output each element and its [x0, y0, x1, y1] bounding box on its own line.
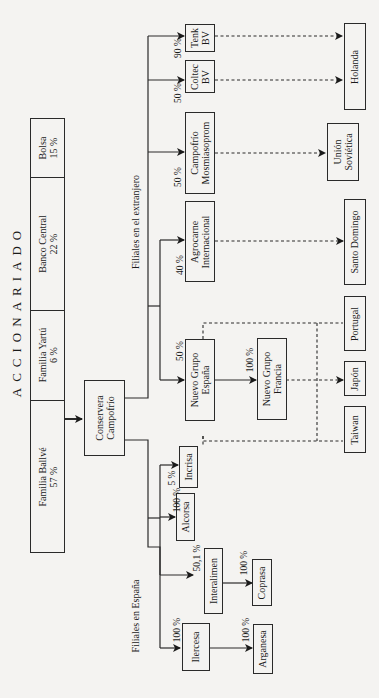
shareholder-familia-yartu: Familia Yartú6 % [31, 310, 64, 400]
subsidiary-ilercesa: Ilercesa [182, 623, 210, 671]
shareholder-familia-ballve: Familia Ballvé57 % [31, 400, 64, 554]
subsidiary-incrisa: Incrisa [179, 446, 198, 488]
pct-arganesa: 100 % [241, 618, 251, 643]
pct-mosmiasoprom: 50 % [173, 167, 183, 187]
subsidiary-interalimen: Interalimen [204, 548, 223, 614]
country-taiwan: Taiwan [344, 406, 366, 453]
pct-interalimen: 50,1 % [192, 545, 202, 572]
pct-nuevo-grupo-espana: 50 % [175, 341, 185, 361]
pct-nuevo-grupo-francia: 100 % [245, 348, 255, 373]
shareholder-banco-central: Banco Central22 % [31, 177, 64, 310]
country-japon: Japón [344, 361, 366, 396]
pct-alcorsa: 100 % [172, 488, 182, 513]
subsidiary-tenk-bv: TenkBV [185, 24, 215, 52]
subsidiary-coprasa: Coprasa [252, 559, 272, 606]
parent-conservera-campofrio: ConserveraCampofrío [84, 380, 125, 456]
pct-coprasa: 100 % [239, 551, 249, 576]
country-portugal: Portugal [344, 296, 366, 351]
pct-ilercesa: 100 % [172, 618, 182, 643]
country-union-sovietica: UniónSoviética [327, 123, 359, 181]
subsidiary-coltec-bv: ColtecBV [185, 60, 215, 93]
country-holanda: Holanda [344, 23, 366, 110]
pct-agrocarne: 40 % [175, 255, 185, 275]
diagram-title: ACCIONARIADO [9, 225, 25, 397]
pct-tenk: 90 % [173, 38, 183, 58]
pct-coltec: 50 % [173, 83, 183, 103]
subsidiary-campofrio-mosmiasoprom: CampofríoMosmiasoprom [185, 112, 215, 194]
group-label-spain: Filiales en España [131, 580, 141, 653]
pct-incrisa: 5 % [167, 470, 177, 485]
country-santo-domingo: Santo Domingo [344, 199, 366, 285]
shareholder-bolsa: Bolsa15 % [31, 119, 64, 177]
shareholders-bar: Bolsa15 % Banco Central22 % Familia Yart… [30, 118, 65, 553]
subsidiary-agrocarne-internacional: AgrocarneInternacional [185, 201, 215, 282]
ownership-diagram: ACCIONARIADO Bolsa15 % Banco Central22 %… [0, 0, 379, 698]
subsidiary-nuevo-grupo-francia: Nuevo GrupoFrancia [257, 338, 287, 420]
group-label-foreign: Filiales en el extranjero [131, 175, 141, 269]
subsidiary-arganesa: Arganesa [253, 624, 273, 674]
subsidiary-nuevo-grupo-espana: Nuevo GrupoEspaña [185, 339, 215, 421]
